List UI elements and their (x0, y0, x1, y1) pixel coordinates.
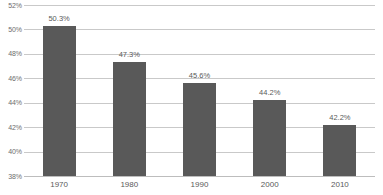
bar[interactable] (113, 62, 146, 176)
y-axis-tick-label: 38% (0, 173, 22, 180)
y-axis-tick-label: 44% (0, 99, 22, 106)
x-axis-tick-label: 1980 (120, 180, 138, 189)
bar-value-label: 45.6% (189, 72, 210, 80)
y-axis-tick-label: 40% (0, 148, 22, 155)
y-axis-tick-label: 52% (0, 2, 22, 9)
bar-group: 47.3% (113, 5, 146, 176)
bar-group: 50.3% (43, 5, 76, 176)
bar-group: 42.2% (323, 5, 356, 176)
gridline (24, 176, 375, 177)
y-axis-tick-label: 42% (0, 124, 22, 131)
y-axis-tick-label: 50% (0, 26, 22, 33)
bar-value-label: 47.3% (119, 51, 140, 59)
y-axis-tick-label: 48% (0, 50, 22, 57)
x-axis-tick-label: 2010 (331, 180, 349, 189)
bar[interactable] (323, 125, 356, 176)
bar[interactable] (183, 83, 216, 176)
x-axis-tick-label: 2000 (261, 180, 279, 189)
bar-chart: 52% 50% 48% 46% 44% 42% 40% 38% 50.3%47.… (0, 0, 383, 195)
bar-value-label: 44.2% (259, 89, 280, 97)
y-axis: 52% 50% 48% 46% 44% 42% 40% 38% (0, 0, 23, 195)
x-axis: 19701980199020002010 (24, 180, 375, 195)
bar-series: 50.3%47.3%45.6%44.2%42.2% (24, 5, 375, 176)
y-axis-tick-label: 46% (0, 75, 22, 82)
bar[interactable] (253, 100, 286, 176)
bar-value-label: 42.2% (329, 114, 350, 122)
bar[interactable] (43, 26, 76, 176)
x-axis-tick-label: 1970 (50, 180, 68, 189)
bar-value-label: 50.3% (48, 15, 69, 23)
bar-group: 44.2% (253, 5, 286, 176)
bar-group: 45.6% (183, 5, 216, 176)
x-axis-tick-label: 1990 (191, 180, 209, 189)
